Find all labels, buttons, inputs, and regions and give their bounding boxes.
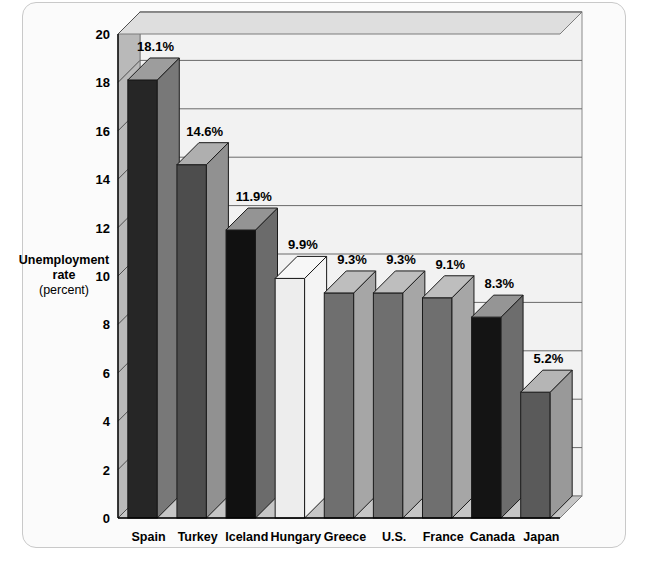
x-category-label: Greece: [324, 530, 366, 544]
x-category-label: Hungary: [271, 530, 322, 544]
y-tick-label: 20: [96, 27, 110, 42]
x-category-label: Canada: [470, 530, 516, 544]
bar-value-label: 9.3%: [337, 252, 367, 267]
y-axis-title-line2: rate: [18, 268, 110, 283]
x-category-label: Japan: [523, 530, 559, 544]
x-category-label: U.S.: [382, 530, 406, 544]
bar-value-label: 5.2%: [534, 351, 564, 366]
y-tick-label: 18: [96, 75, 110, 90]
bar-value-label: 9.1%: [435, 257, 465, 272]
bar-value-label: 9.3%: [386, 252, 416, 267]
y-tick-label: 4: [103, 414, 111, 429]
x-category-label: Iceland: [225, 530, 268, 544]
y-axis-title: Unemployment rate (percent): [18, 253, 110, 297]
y-tick-label: 8: [103, 317, 110, 332]
x-category-label: France: [423, 530, 464, 544]
bar-value-label: 11.9%: [236, 189, 273, 204]
bar-value-label: 18.1%: [137, 39, 174, 54]
y-tick-label: 12: [96, 221, 110, 236]
x-category-label: Turkey: [178, 530, 218, 544]
y-tick-label: 6: [103, 366, 110, 381]
bar-value-label: 8.3%: [485, 276, 515, 291]
y-axis-title-line1: Unemployment: [18, 253, 110, 268]
y-axis-title-unit: (percent): [18, 283, 110, 298]
y-tick-label: 2: [103, 463, 110, 478]
x-axis-category-labels: SpainTurkeyIcelandHungaryGreeceU.S.Franc…: [132, 530, 560, 544]
y-tick-label: 0: [103, 511, 110, 526]
x-category-label: Spain: [132, 530, 166, 544]
bar-value-label: 9.9%: [288, 237, 318, 252]
y-tick-label: 16: [96, 124, 110, 139]
y-tick-label: 14: [96, 172, 111, 187]
bar-value-label: 14.6%: [186, 124, 223, 139]
